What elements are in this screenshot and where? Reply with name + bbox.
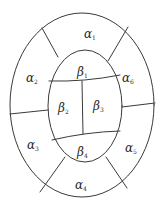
label-alpha1: α1 bbox=[84, 27, 96, 41]
divider-alpha4-alpha5 bbox=[106, 157, 127, 188]
oval-partition-diagram: α1 α2 α3 α4 α5 α6 β1 β2 β3 β4 bbox=[0, 0, 162, 220]
divider-alpha2-alpha3 bbox=[10, 110, 48, 114]
diagram-canvas: α1 α2 α3 α4 α5 α6 β1 β2 β3 β4 bbox=[0, 0, 162, 220]
divider-beta4-top bbox=[52, 131, 120, 140]
divider-alpha1-alpha2 bbox=[42, 28, 58, 57]
label-beta4: β4 bbox=[76, 145, 88, 159]
label-alpha6: α6 bbox=[122, 71, 134, 85]
label-alpha4: α4 bbox=[75, 178, 87, 192]
divider-beta2-beta3 bbox=[82, 81, 83, 134]
label-alpha3: α3 bbox=[27, 138, 39, 152]
label-beta1: β1 bbox=[76, 65, 88, 79]
label-alpha2: α2 bbox=[26, 71, 38, 85]
label-beta3: β3 bbox=[92, 99, 104, 113]
label-alpha5: α5 bbox=[125, 141, 137, 155]
divider-alpha3-alpha4 bbox=[40, 157, 65, 192]
divider-alpha6-alpha5 bbox=[122, 103, 155, 107]
label-beta2: β2 bbox=[57, 101, 69, 115]
divider-alpha1-alpha6 bbox=[108, 27, 128, 61]
